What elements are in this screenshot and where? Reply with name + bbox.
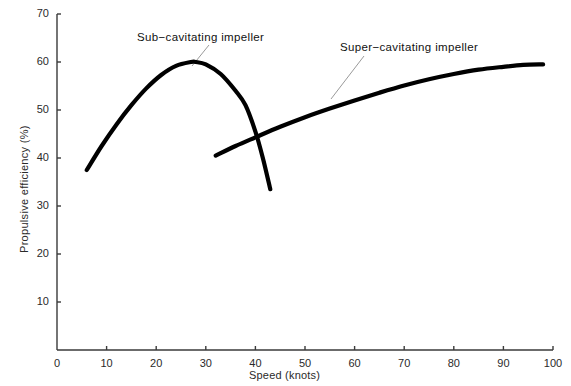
plot-area <box>0 0 571 386</box>
super-cavitating-annotation-text: Super−cavitating impeller <box>340 41 478 53</box>
x-axis-tick-label: 60 <box>335 357 375 369</box>
series-line-2 <box>216 64 543 155</box>
data-series-group <box>87 62 543 190</box>
x-axis-tick-label: 100 <box>533 357 571 369</box>
sub-cavitating-annotation-text: Sub−cavitating impeller <box>137 31 264 43</box>
y-axis-title: Propulsive efficiency (%) <box>18 125 30 253</box>
series-line-1 <box>87 62 271 190</box>
y-axis-tick-label: 60 <box>13 55 49 67</box>
axes-group <box>57 14 553 350</box>
y-axis-tick-label: 10 <box>13 295 49 307</box>
x-axis-tick-label: 10 <box>87 357 127 369</box>
y-axis-tick-label: 70 <box>13 7 49 19</box>
y-axis-tick-label: 50 <box>13 103 49 115</box>
x-axis-tick-label: 80 <box>434 357 474 369</box>
x-axis-tick-label: 90 <box>483 357 523 369</box>
x-axis-tick-label: 20 <box>136 357 176 369</box>
x-axis-tick-label: 40 <box>235 357 275 369</box>
chart-figure: · · ··· · ·· ··· · ·· 10203040506070 010… <box>0 0 571 386</box>
x-axis-tick-label: 50 <box>285 357 325 369</box>
x-axis-tick-label: 70 <box>384 357 424 369</box>
x-axis-tick-label: 0 <box>37 357 77 369</box>
super-cavitating-annotation-leader-line <box>331 56 364 99</box>
x-axis-title: Speed (knots) <box>249 369 320 381</box>
x-axis-tick-label: 30 <box>186 357 226 369</box>
